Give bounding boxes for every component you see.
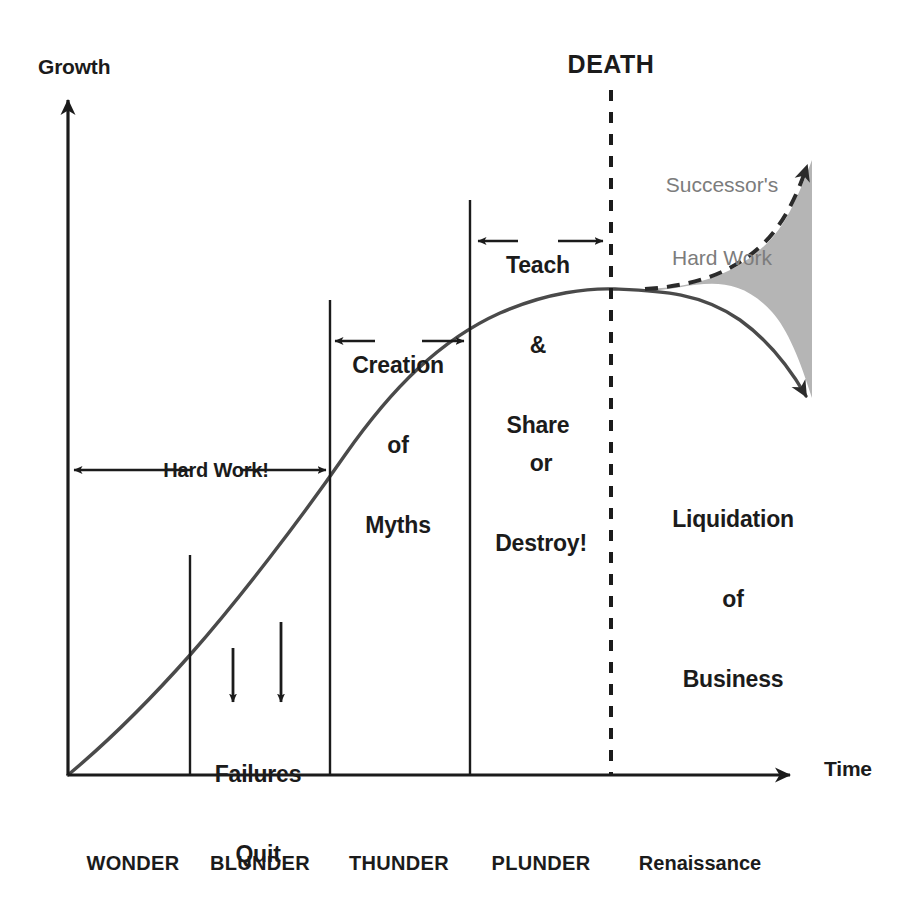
stage-blunder-name: BLUNDER bbox=[210, 852, 310, 875]
liquidation-of-business-label: Liquidation of Business bbox=[672, 453, 794, 746]
liquidation-line-3: Business bbox=[672, 666, 794, 693]
or-destroy-line-1: or bbox=[495, 450, 587, 477]
creation-of-myths-label: Creation of Myths bbox=[352, 299, 444, 592]
successor-hard-work-note: Successor's Hard Work bbox=[666, 124, 779, 319]
or-destroy-line-2: Destroy! bbox=[495, 530, 587, 557]
stage-label-thunder: THUNDER III bbox=[349, 806, 449, 921]
stage-wonder-name: WONDER bbox=[87, 852, 180, 875]
liquidation-line-1: Liquidation bbox=[672, 506, 794, 533]
stage-label-blunder: BLUNDER II bbox=[210, 806, 310, 921]
successor-hard-work-line-2: Hard Work bbox=[666, 246, 779, 270]
stage-plunder-name: PLUNDER bbox=[492, 852, 591, 875]
creation-of-myths-line-2: of bbox=[352, 432, 444, 459]
stage-thunder-name: THUNDER bbox=[349, 852, 449, 875]
teach-and-share-line-1: Teach bbox=[506, 252, 570, 279]
stage-label-renaissance: Renaissance of WONDER or ASUNDER bbox=[638, 806, 762, 921]
creation-of-myths-line-1: Creation bbox=[352, 352, 444, 379]
x-axis-label: Time bbox=[824, 757, 872, 781]
stage-label-plunder: PLUNDER IV bbox=[492, 806, 591, 921]
liquidation-line-2: of bbox=[672, 586, 794, 613]
failures-line-1: Failures bbox=[215, 761, 302, 788]
stage-label-wonder: WONDER I bbox=[87, 806, 180, 921]
business-lifecycle-diagram: Growth Time DEATH Successor's Hard Work … bbox=[0, 0, 909, 921]
hard-work-label: Hard Work! bbox=[163, 459, 268, 482]
death-label: DEATH bbox=[568, 50, 655, 79]
teach-and-share-line-2: & bbox=[506, 332, 570, 359]
successor-hard-work-line-1: Successor's bbox=[666, 173, 779, 197]
y-axis-label: Growth bbox=[38, 55, 110, 79]
creation-of-myths-line-3: Myths bbox=[352, 512, 444, 539]
stage-renaissance-name: Renaissance bbox=[638, 852, 762, 875]
or-destroy-label: or Destroy! bbox=[495, 397, 587, 610]
